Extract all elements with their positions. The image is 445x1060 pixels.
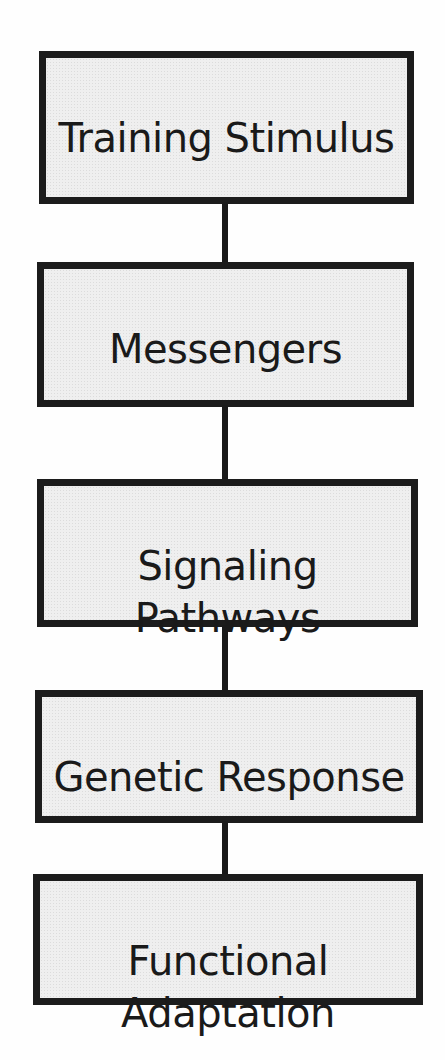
flow-box-training-stimulus: Training Stimulus bbox=[39, 51, 414, 204]
flow-box-messengers: Messengers bbox=[37, 262, 414, 407]
flow-box-signaling-pathways: Signaling Pathways bbox=[37, 479, 418, 627]
box-label: Messengers bbox=[109, 326, 342, 372]
box-label: Functional Adaptation bbox=[121, 938, 335, 1036]
flow-box-genetic-response: Genetic Response bbox=[35, 690, 423, 823]
box-label: Training Stimulus bbox=[59, 115, 395, 161]
connector-line bbox=[222, 405, 228, 481]
connector-line bbox=[222, 821, 228, 876]
connector-line bbox=[222, 625, 228, 692]
connector-line bbox=[222, 202, 228, 264]
box-label: Genetic Response bbox=[53, 754, 404, 800]
flowchart-diagram: Training Stimulus Messengers Signaling P… bbox=[0, 0, 445, 1060]
flow-box-functional-adaptation: Functional Adaptation bbox=[33, 874, 423, 1005]
